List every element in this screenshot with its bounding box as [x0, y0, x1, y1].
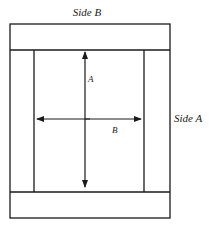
side-a-label: Side A	[174, 112, 202, 124]
side-b-label: Side B	[73, 6, 102, 18]
arrow-b-label: B	[112, 125, 118, 135]
arrow-a-label: A	[87, 74, 94, 84]
frame-diagram: Side B Side A A B	[0, 0, 209, 233]
